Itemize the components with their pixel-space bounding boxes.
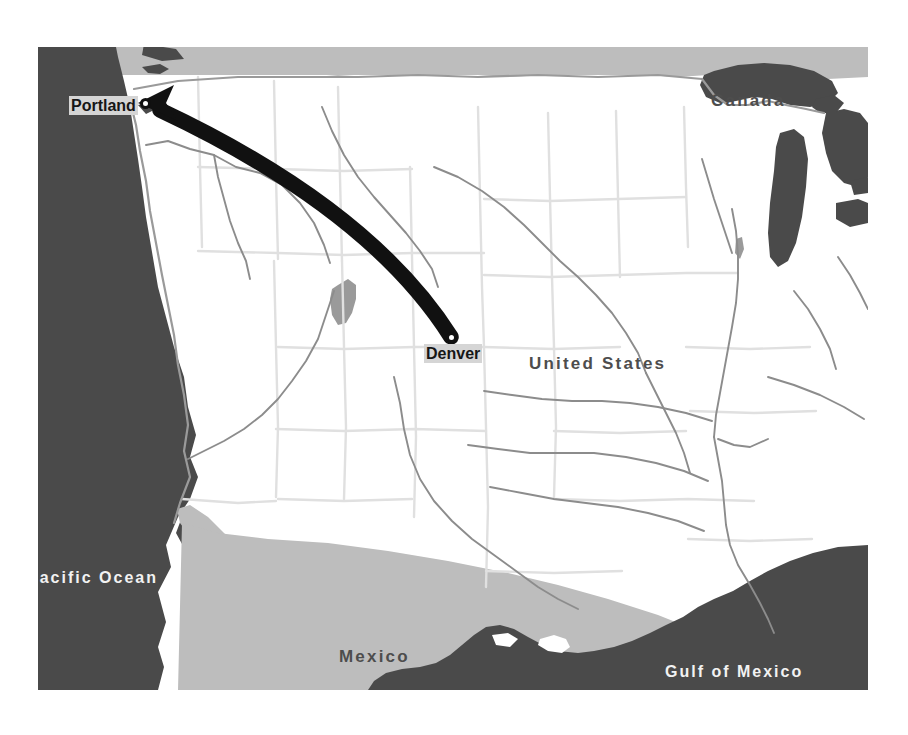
portland-city-dot[interactable]: [140, 98, 151, 109]
map-canvas: [38, 47, 868, 690]
denver-city-dot[interactable]: [446, 332, 457, 343]
map-figure: Canada United States Mexico Pacific Ocea…: [38, 47, 868, 690]
